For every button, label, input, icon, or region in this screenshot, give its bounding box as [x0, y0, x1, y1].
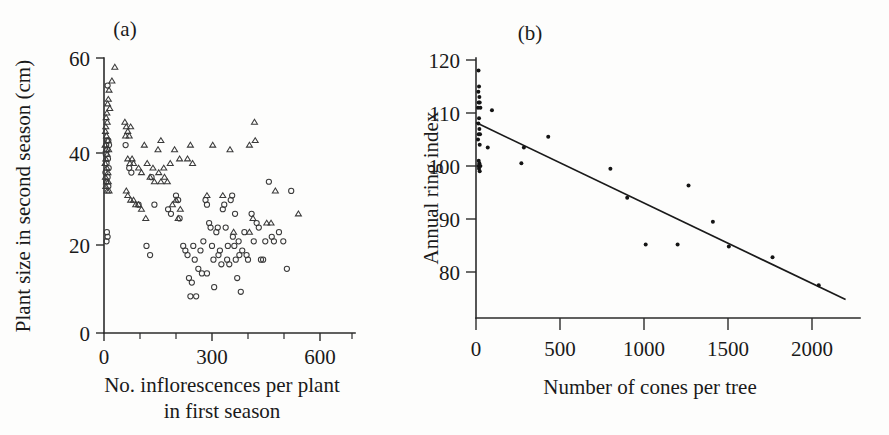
marker-circle — [236, 239, 241, 244]
panel-a-ytick-20: 20 — [69, 234, 90, 258]
marker-dot — [490, 108, 494, 112]
marker-dot — [546, 135, 550, 139]
panel-b-ylabel: Annual ring index — [420, 111, 443, 264]
marker-dot — [478, 100, 482, 104]
marker-triangle — [141, 142, 147, 147]
marker-circle — [192, 257, 197, 262]
marker-circle — [168, 211, 173, 216]
marker-dot — [476, 122, 480, 126]
panel-b-ytick-120: 120 — [429, 49, 461, 73]
marker-circle — [238, 289, 243, 294]
panel-a-y-ticks — [96, 58, 104, 333]
marker-circle — [242, 230, 247, 235]
panel-a-ytick-40: 40 — [69, 142, 90, 166]
marker-circle — [235, 275, 240, 280]
marker-circle — [230, 234, 235, 239]
marker-circle — [188, 294, 193, 299]
marker-dot — [771, 255, 775, 259]
marker-circle — [147, 252, 152, 257]
marker-circle — [223, 225, 228, 230]
marker-triangle — [105, 96, 111, 101]
panel-a-xtick-600: 600 — [304, 345, 336, 369]
marker-circle — [240, 248, 245, 253]
marker-dot — [478, 143, 482, 147]
marker-circle — [189, 280, 194, 285]
panel-a-xtick-0: 0 — [99, 345, 110, 369]
marker-triangle — [123, 188, 129, 193]
panel-b-xtick-2000: 2000 — [791, 337, 833, 361]
marker-circle — [271, 239, 276, 244]
marker-triangle — [295, 211, 301, 216]
panel-b-xtick-1000: 1000 — [623, 337, 665, 361]
marker-circle — [196, 266, 201, 271]
marker-dot — [608, 167, 612, 171]
panel-a-xtick-300: 300 — [196, 345, 228, 369]
panel-a-x-ticks — [104, 333, 352, 341]
marker-circle — [129, 170, 134, 175]
marker-dot — [519, 161, 523, 165]
marker-circle — [105, 83, 110, 88]
marker-dot — [711, 220, 715, 224]
marker-dot — [477, 69, 481, 73]
panel-b-xlabel: Number of cones per tree — [543, 375, 756, 399]
marker-dot — [644, 242, 648, 246]
marker-dot — [676, 242, 680, 246]
marker-triangle — [158, 138, 164, 143]
marker-circle — [281, 239, 286, 244]
marker-circle — [233, 257, 238, 262]
marker-circle — [227, 262, 232, 267]
marker-dot — [478, 169, 482, 173]
marker-circle — [209, 243, 214, 248]
marker-circle — [263, 239, 268, 244]
panel-b-y-ticks — [466, 60, 476, 272]
marker-circle — [185, 252, 190, 257]
marker-circle — [211, 257, 216, 262]
marker-circle — [225, 243, 230, 248]
marker-triangle — [185, 156, 191, 161]
marker-circle — [232, 211, 237, 216]
panel-a-ytick-60: 60 — [69, 47, 90, 71]
marker-dot — [522, 145, 526, 149]
marker-dot — [478, 106, 482, 110]
marker-circle — [194, 294, 199, 299]
marker-triangle — [268, 220, 274, 225]
marker-triangle — [251, 119, 257, 124]
panel-a-xlabel-line1: No. inflorescences per plant — [104, 373, 340, 397]
marker-circle — [249, 211, 254, 216]
marker-triangle — [109, 78, 115, 83]
marker-triangle — [155, 147, 161, 152]
panel-b-svg: (b) 120 110 100 90 80 — [420, 0, 889, 435]
marker-triangle — [220, 193, 226, 198]
marker-circle — [266, 179, 271, 184]
marker-circle — [256, 225, 261, 230]
panel-a-xlabel-line2: in first season — [164, 399, 281, 423]
panel-a-svg: (a) 60 40 20 0 — [0, 0, 445, 435]
figure-container: (a) 60 40 20 0 — [0, 0, 889, 435]
panel-b-datapoints — [476, 69, 821, 288]
marker-dot — [477, 95, 481, 99]
marker-circle — [232, 243, 237, 248]
panel-b-xtick-0: 0 — [471, 337, 482, 361]
marker-triangle — [227, 147, 233, 152]
panel-a-label: (a) — [113, 17, 136, 41]
panel-b-x-ticks — [476, 318, 812, 330]
marker-triangle — [177, 156, 183, 161]
marker-circle — [198, 248, 203, 253]
marker-circle — [152, 202, 157, 207]
panel-a-scatter: (a) 60 40 20 0 — [0, 0, 445, 435]
marker-circle — [219, 262, 224, 267]
marker-circle — [276, 230, 281, 235]
marker-circle — [123, 142, 128, 147]
marker-dot — [477, 127, 481, 131]
marker-dot — [727, 245, 731, 249]
marker-dot — [476, 138, 480, 142]
marker-triangle — [161, 165, 167, 170]
marker-dot — [486, 145, 490, 149]
marker-circle — [191, 243, 196, 248]
marker-triangle — [187, 142, 193, 147]
marker-dot — [477, 85, 481, 89]
marker-triangle — [112, 64, 118, 69]
panel-a-ylabel: Plant size in second season (cm) — [11, 60, 35, 332]
marker-triangle — [122, 119, 128, 124]
marker-triangle — [144, 161, 150, 166]
